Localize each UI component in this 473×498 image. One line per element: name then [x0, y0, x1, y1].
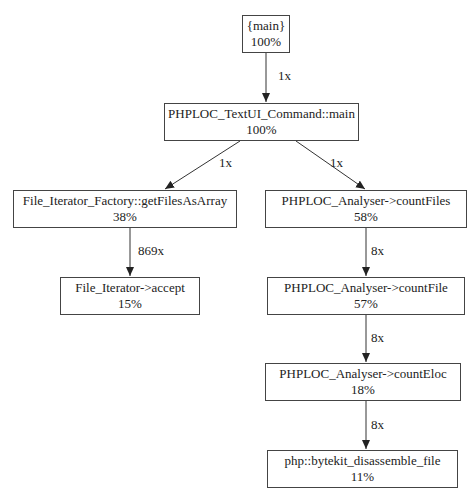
node-label: PHPLOC_Analyser->countEloc — [279, 366, 446, 382]
node-percent: 38% — [113, 209, 137, 225]
node-count-file[interactable]: PHPLOC_Analyser->countFile 57% — [267, 277, 465, 315]
node-percent: 100% — [251, 34, 281, 50]
edge-label-countfile-counteloc: 8x — [371, 331, 384, 345]
edge-label-factory-accept: 869x — [138, 244, 164, 258]
node-percent: 58% — [354, 209, 378, 225]
edge-label-textui-factory: 1x — [219, 156, 232, 170]
edge-label-countfiles-countfile: 8x — [371, 244, 384, 258]
node-percent: 57% — [354, 296, 378, 312]
node-iterator-accept[interactable]: File_Iterator->accept 15% — [60, 277, 200, 315]
node-percent: 15% — [118, 296, 142, 312]
node-textui-command-main[interactable]: PHPLOC_TextUI_Command::main 100% — [164, 103, 359, 141]
node-percent: 18% — [351, 382, 375, 398]
node-label: PHPLOC_Analyser->countFiles — [282, 193, 451, 209]
node-bytekit-disassemble[interactable]: php::bytekit_disassemble_file 11% — [267, 450, 458, 488]
node-count-files[interactable]: PHPLOC_Analyser->countFiles 58% — [265, 190, 467, 228]
node-label: File_Iterator_Factory::getFilesAsArray — [23, 193, 227, 209]
edge-label-textui-countfiles: 1x — [330, 156, 343, 170]
edge-label-counteloc-bytekit: 8x — [371, 418, 384, 432]
node-get-files-as-array[interactable]: File_Iterator_Factory::getFilesAsArray 3… — [13, 190, 237, 228]
node-label: php::bytekit_disassemble_file — [285, 453, 441, 469]
node-label: {main} — [247, 18, 285, 34]
edge-label-main-textui: 1x — [278, 69, 291, 83]
node-label: PHPLOC_Analyser->countFile — [284, 280, 448, 296]
node-percent: 100% — [246, 122, 276, 138]
node-main[interactable]: {main} 100% — [242, 15, 290, 53]
node-label: File_Iterator->accept — [75, 280, 185, 296]
edges-layer — [0, 0, 473, 498]
node-percent: 11% — [351, 469, 374, 485]
node-count-eloc[interactable]: PHPLOC_Analyser->countEloc 18% — [265, 363, 461, 401]
node-label: PHPLOC_TextUI_Command::main — [168, 106, 355, 122]
